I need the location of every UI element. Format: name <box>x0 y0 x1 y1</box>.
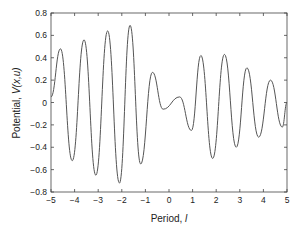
line-chart: −5−4−3−2−1012345 −0.8−0.6−0.4−0.200.20.4… <box>0 0 302 235</box>
x-tick-label: 1 <box>190 195 195 205</box>
y-tick-label: 0.8 <box>35 8 47 18</box>
x-tick-label: 0 <box>167 195 172 205</box>
x-tick-label: 4 <box>261 195 266 205</box>
x-tick-label: −2 <box>117 195 127 205</box>
y-tick-label: 0.6 <box>35 30 47 40</box>
plot-frame <box>51 13 287 192</box>
x-tick-label: −1 <box>141 195 151 205</box>
y-tick-label: 0 <box>42 98 47 108</box>
y-tick-label: 0.4 <box>35 53 47 63</box>
x-tick-label: −5 <box>46 195 56 205</box>
potential-curve <box>51 25 287 183</box>
x-tick-label: −4 <box>70 195 80 205</box>
x-axis-label: Period, l <box>151 213 188 224</box>
y-tick-label: 0.2 <box>35 75 47 85</box>
x-tick-label: −3 <box>93 195 103 205</box>
y-axis-label: Potential, V(x,u) <box>11 67 22 138</box>
y-axis-ticks: −0.8−0.6−0.4−0.200.20.40.60.8 <box>30 8 287 197</box>
y-tick-label: −0.6 <box>30 165 47 175</box>
x-tick-label: 5 <box>285 195 290 205</box>
x-tick-label: 3 <box>237 195 242 205</box>
y-tick-label: −0.4 <box>30 142 47 152</box>
y-tick-label: −0.2 <box>30 120 47 130</box>
y-tick-label: −0.8 <box>30 187 47 197</box>
x-tick-label: 2 <box>214 195 219 205</box>
